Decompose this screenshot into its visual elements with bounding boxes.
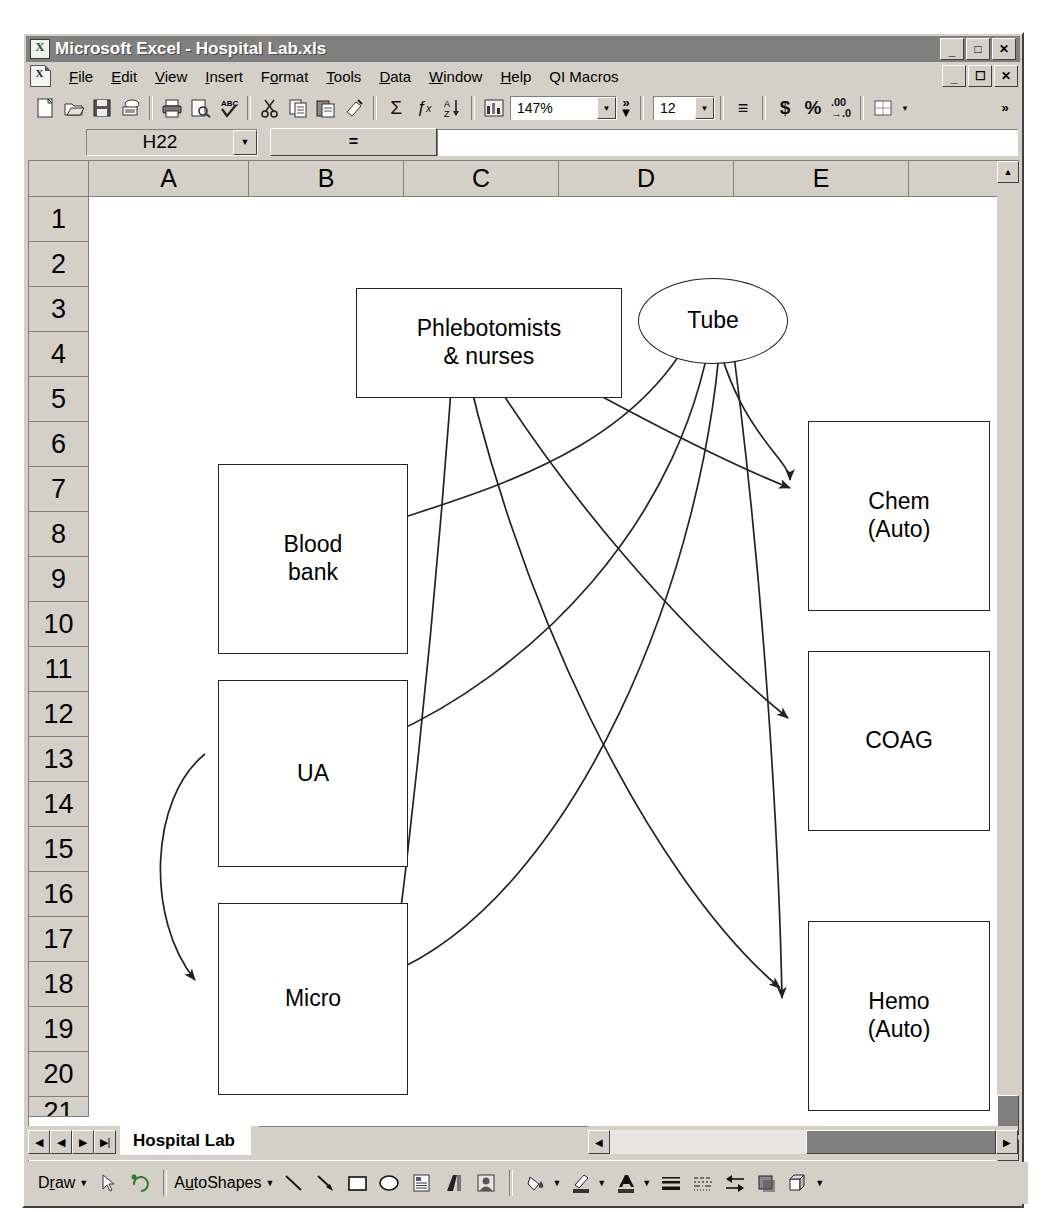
row-header-2[interactable]: 2 [29,242,89,287]
doc-restore-button[interactable]: ☐ [968,65,992,87]
oval-icon[interactable] [374,1168,406,1198]
paste-function-icon[interactable]: ƒx [410,94,438,122]
menu-item-file[interactable]: FFileile [60,66,102,87]
edit-formula-button[interactable]: = [270,128,437,156]
first-sheet-icon[interactable]: ◀ [28,1130,50,1154]
doc-minimize-button[interactable]: _ [942,65,966,87]
percent-icon[interactable]: % [799,94,827,122]
format-painter-icon[interactable] [340,94,368,122]
free-rotate-icon[interactable] [124,1168,156,1198]
horizontal-scrollbar[interactable]: ◀ ▶ [588,1129,1018,1155]
next-sheet-icon[interactable]: ▶ [72,1130,94,1154]
chevron-down-icon[interactable]: ▼ [552,1178,561,1188]
row-header-21[interactable]: 21 [29,1097,89,1117]
row-header-14[interactable]: 14 [29,782,89,827]
copy-icon[interactable] [284,94,312,122]
row-header-18[interactable]: 18 [29,962,89,1007]
menu-item-view[interactable]: View [146,66,196,87]
fill-color-icon[interactable] [520,1168,552,1198]
last-sheet-icon[interactable]: ▶| [94,1130,116,1154]
print-preview-icon[interactable] [186,94,214,122]
spelling-icon[interactable]: ABC [214,94,242,122]
chevron-down-icon[interactable]: ▼ [597,1178,606,1188]
name-box[interactable]: H22 ▼ [86,129,258,156]
currency-icon[interactable]: $ [771,94,799,122]
column-header-b[interactable]: B [249,161,404,197]
row-header-4[interactable]: 4 [29,332,89,377]
node-phlebotomists[interactable]: Phlebotomists& nurses [356,288,622,398]
vertical-scrollbar[interactable]: ▲ ▼ [997,161,1019,1161]
node-tube[interactable]: Tube [638,278,788,364]
row-header-5[interactable]: 5 [29,377,89,422]
minimize-button[interactable]: _ [940,38,964,60]
formula-input[interactable] [437,129,1018,156]
row-header-9[interactable]: 9 [29,557,89,602]
paste-icon[interactable] [312,94,340,122]
scroll-left-icon[interactable]: ◀ [588,1130,610,1154]
line-icon[interactable] [278,1168,310,1198]
row-header-6[interactable]: 6 [29,422,89,467]
prev-sheet-icon[interactable]: ◀ [50,1130,72,1154]
row-header-12[interactable]: 12 [29,692,89,737]
3d-icon[interactable] [783,1168,815,1198]
toolbar-overflow-icon[interactable]: »▼ [617,98,635,119]
autosum-icon[interactable]: Σ [382,94,410,122]
menu-item-insert[interactable]: Insert [196,66,252,87]
menu-item-data[interactable]: Data [370,66,420,87]
column-header-a[interactable]: A [89,161,249,197]
row-header-19[interactable]: 19 [29,1007,89,1052]
column-header-c[interactable]: C [404,161,559,197]
chevron-down-icon[interactable]: ▼ [897,94,913,122]
row-header-20[interactable]: 20 [29,1052,89,1097]
wordart-icon[interactable] [438,1168,470,1198]
chart-wizard-icon[interactable] [480,94,508,122]
scroll-right-icon[interactable]: ▶ [996,1130,1018,1154]
doc-close-button[interactable]: ✕ [994,65,1018,87]
row-header-1[interactable]: 1 [29,197,89,242]
row-header-3[interactable]: 3 [29,287,89,332]
zoom-combo[interactable]: 147% ▼ [510,96,617,120]
scroll-up-icon[interactable]: ▲ [997,161,1019,183]
sheet-canvas[interactable]: Phlebotomists& nurses Tube Bloodbank UA … [90,198,1019,1161]
node-ua[interactable]: UA [218,680,408,867]
save-icon[interactable] [88,94,116,122]
node-coag[interactable]: COAG [808,651,990,831]
text-box-icon[interactable] [406,1168,438,1198]
menu-item-qi-macros[interactable]: QI Macros [540,66,627,87]
draw-menu-button[interactable]: Draw [38,1174,75,1192]
node-blood-bank[interactable]: Bloodbank [218,464,408,654]
borders-icon[interactable] [869,94,897,122]
print-icon[interactable] [158,94,186,122]
arrow-style-icon[interactable] [719,1168,751,1198]
chevron-down-icon[interactable]: ▼ [79,1178,88,1188]
decimal-icon[interactable]: .00→.0 [827,94,855,122]
align-icon[interactable]: ≡ [729,94,757,122]
node-micro[interactable]: Micro [218,903,408,1095]
select-arrow-icon[interactable] [92,1168,124,1198]
row-header-10[interactable]: 10 [29,602,89,647]
chevron-down-icon[interactable]: ▼ [597,97,616,119]
menu-item-edit[interactable]: Edit [102,66,146,87]
font-color-icon[interactable] [610,1168,642,1198]
maximize-button[interactable]: □ [966,38,990,60]
mail-icon[interactable] [116,94,144,122]
row-header-16[interactable]: 16 [29,872,89,917]
menu-item-window[interactable]: Window [420,66,491,87]
shadow-icon[interactable] [751,1168,783,1198]
line-style-icon[interactable] [655,1168,687,1198]
workbook-icon[interactable] [30,65,51,87]
dash-style-icon[interactable] [687,1168,719,1198]
column-header-d[interactable]: D [559,161,734,197]
row-header-13[interactable]: 13 [29,737,89,782]
row-header-15[interactable]: 15 [29,827,89,872]
autoshapes-menu-button[interactable]: AutoShapes [174,1174,261,1192]
node-hemo-auto[interactable]: Hemo(Auto) [808,921,990,1111]
clip-art-icon[interactable] [470,1168,502,1198]
menu-item-tools[interactable]: Tools [317,66,370,87]
cut-icon[interactable] [256,94,284,122]
chevron-down-icon[interactable]: ▼ [815,1178,824,1188]
new-icon[interactable] [32,94,60,122]
chevron-down-icon[interactable]: ▼ [642,1178,651,1188]
chevron-down-icon[interactable]: ▼ [695,97,714,119]
row-header-11[interactable]: 11 [29,647,89,692]
